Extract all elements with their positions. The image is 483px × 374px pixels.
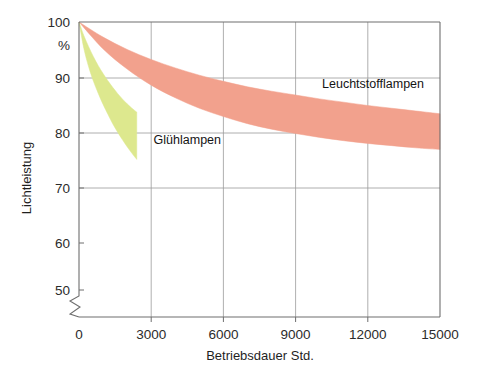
x-tick-label-0: 0: [75, 327, 83, 342]
y-tick-label-50: 50: [55, 283, 70, 298]
series-annotation-glhlampen: Glühlampen: [154, 133, 221, 147]
y-tick-label-100: 100: [47, 15, 70, 30]
series-annotation-leuchtstofflampen: Leuchtstofflampen: [322, 77, 424, 91]
y-axis-title: Lichtleistung: [19, 142, 34, 214]
y-tick-label-90: 90: [55, 71, 70, 86]
chart-container: 100%9080706050 03000600090001200015000 L…: [0, 0, 483, 374]
light-output-vs-operating-hours-chart: 100%9080706050 03000600090001200015000 L…: [0, 0, 483, 374]
y-tick-label-unit: %: [58, 38, 70, 53]
x-tick-label-6000: 6000: [208, 327, 238, 342]
chart-background: [0, 0, 483, 374]
x-tick-label-15000: 15000: [421, 327, 459, 342]
x-tick-label-3000: 3000: [136, 327, 166, 342]
x-axis-title: Betriebsdauer Std.: [206, 348, 314, 363]
x-tick-label-12000: 12000: [349, 327, 387, 342]
y-tick-label-60: 60: [55, 236, 70, 251]
x-tick-label-9000: 9000: [281, 327, 311, 342]
y-tick-label-80: 80: [55, 126, 70, 141]
y-tick-label-70: 70: [55, 181, 70, 196]
